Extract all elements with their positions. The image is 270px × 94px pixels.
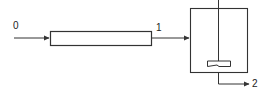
inlet-stream-label: 0 xyxy=(13,21,19,31)
impeller-icon xyxy=(208,61,231,67)
tubular-reactor xyxy=(51,32,152,46)
process-diagram xyxy=(0,0,270,94)
intermediate-stream-label: 1 xyxy=(156,23,162,33)
outlet-stream-label: 2 xyxy=(252,79,258,89)
outlet-stream-arrow xyxy=(219,73,250,85)
